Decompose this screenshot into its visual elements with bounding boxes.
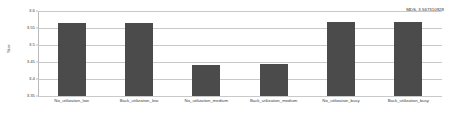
x-axis-tick-label: No_utilization_medium <box>185 99 228 103</box>
x-axis-tick-label: No_utilization_busy <box>322 99 359 103</box>
y-axis-tick-label: 3.6 <box>29 9 35 13</box>
bar-chart: Size 3.63.553.53.453.43.35 No_utilizatio… <box>0 0 449 120</box>
bar <box>192 65 220 96</box>
y-axis-tick-label: 3.45 <box>27 60 35 64</box>
y-axis-tick-label: 3.4 <box>29 77 35 81</box>
y-axis-tick-label: 3.5 <box>29 43 35 47</box>
y-axis-tick-label: 3.35 <box>27 94 35 98</box>
gridline <box>38 96 442 97</box>
bar <box>327 22 355 96</box>
x-axis-tick-label: Back_utilization_low <box>120 99 159 103</box>
bars-layer <box>38 11 442 96</box>
chart-annotation: MDS, 3.567310928 <box>406 8 444 12</box>
x-axis-tick-label: No_utilization_low <box>54 99 89 103</box>
x-axis-tick-label: Back_utilization_busy <box>388 99 429 103</box>
bar <box>394 22 422 96</box>
plot-area: 3.63.553.53.453.43.35 <box>38 11 442 96</box>
y-axis-title-label: Size <box>5 44 10 53</box>
bar <box>58 23 86 96</box>
bar <box>125 23 153 96</box>
x-axis-tick-labels: No_utilization_lowBack_utilization_lowNo… <box>38 99 442 111</box>
y-axis-tick-label: 3.55 <box>27 26 35 30</box>
x-axis-tick-label: Back_utilization_medium <box>250 99 298 103</box>
y-axis-title: Size <box>2 0 14 96</box>
bar <box>260 64 288 96</box>
